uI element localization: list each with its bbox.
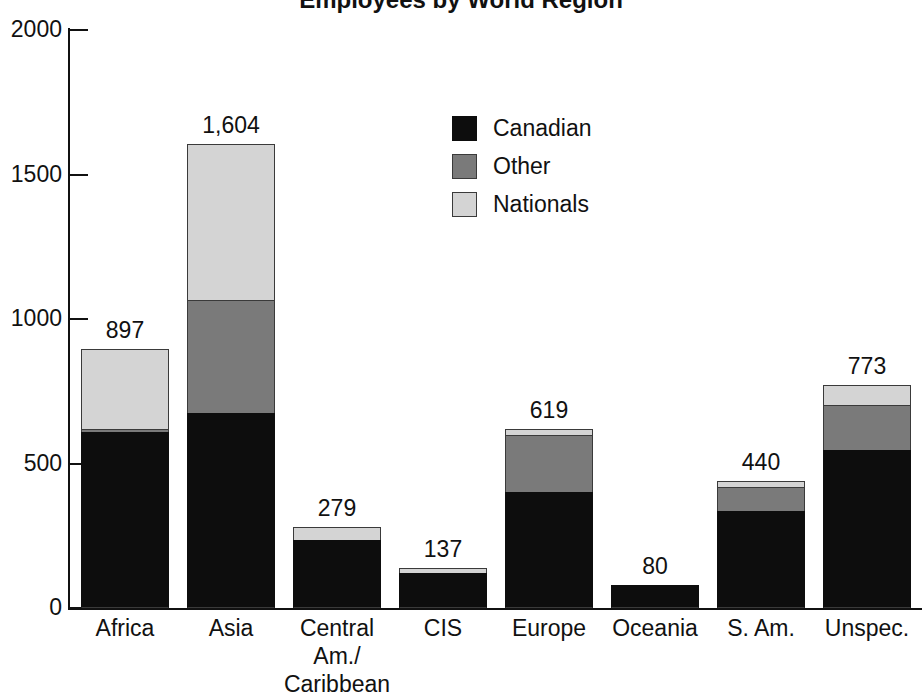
bar-segment-nationals[interactable]: [81, 349, 169, 430]
bar-chart: Employees by World Region 20001500100050…: [0, 0, 922, 696]
y-tick-label: 2000: [0, 18, 62, 41]
legend-label: Other: [493, 155, 551, 178]
x-axis-label: CIS: [385, 614, 501, 642]
legend-item[interactable]: Other: [452, 150, 662, 183]
legend-item[interactable]: Nationals: [452, 188, 662, 221]
x-axis-label: Asia: [173, 614, 289, 642]
bar-total-label: 1,604: [151, 113, 311, 138]
x-axis-label: Africa: [67, 614, 183, 642]
x-axis-label-line: Asia: [173, 614, 289, 642]
bar-group[interactable]: 80: [611, 585, 699, 608]
x-axis-label-line: Am./: [279, 642, 395, 670]
legend-item[interactable]: Canadian: [452, 112, 662, 145]
x-axis-label: Europe: [491, 614, 607, 642]
y-tick-label: 1500: [0, 163, 62, 186]
x-axis-label-line: S. Am.: [703, 614, 819, 642]
x-axis-label-line: Africa: [67, 614, 183, 642]
bar-group[interactable]: 773: [823, 385, 911, 608]
bar-total-label: 619: [469, 398, 629, 423]
y-tick-1500: [70, 174, 88, 176]
bar-segment-other[interactable]: [823, 405, 911, 450]
bar-segment-nationals[interactable]: [187, 144, 275, 300]
bar-total-label: 897: [45, 318, 205, 343]
x-axis-label-line: Central: [279, 614, 395, 642]
y-tick-label: 0: [0, 596, 62, 619]
swatch-canadian-icon: [452, 116, 477, 141]
x-axis-label-line: Oceania: [597, 614, 713, 642]
bar-segment-canadian[interactable]: [717, 511, 805, 608]
x-axis-label: CentralAm./Caribbean: [279, 614, 395, 696]
x-axis-label-line: Caribbean: [279, 670, 395, 696]
bar-group[interactable]: 440: [717, 481, 805, 608]
x-axis-label: S. Am.: [703, 614, 819, 642]
x-axis-label-line: CIS: [385, 614, 501, 642]
y-tick-2000: [70, 29, 88, 31]
bar-segment-canadian[interactable]: [399, 573, 487, 608]
bar-segment-canadian[interactable]: [823, 450, 911, 608]
bar-total-label: 440: [681, 450, 841, 475]
bar-total-label: 773: [787, 354, 922, 379]
bar-segment-canadian[interactable]: [611, 585, 699, 608]
x-axis-label: Oceania: [597, 614, 713, 642]
bar-segment-other[interactable]: [505, 435, 593, 492]
bar-total-label: 279: [257, 496, 417, 521]
bar-total-label: 80: [575, 554, 735, 579]
bar-group[interactable]: 619: [505, 429, 593, 608]
swatch-nationals-icon: [452, 192, 477, 217]
bar-segment-other[interactable]: [187, 300, 275, 413]
bar-segment-other[interactable]: [717, 487, 805, 512]
x-axis-label-line: Europe: [491, 614, 607, 642]
legend-label: Canadian: [493, 117, 591, 140]
swatch-other-icon: [452, 154, 477, 179]
plot-area: 2000150010005000 8971,604279137619804407…: [0, 0, 922, 696]
legend: CanadianOtherNationals: [452, 112, 662, 226]
bar-group[interactable]: 897: [81, 349, 169, 608]
x-axis-line: [68, 608, 922, 610]
bar-segment-canadian[interactable]: [505, 492, 593, 608]
y-tick-label: 500: [0, 452, 62, 475]
bar-group[interactable]: 137: [399, 568, 487, 608]
bar-total-label: 137: [363, 537, 523, 562]
bar-segment-canadian[interactable]: [81, 432, 169, 608]
bar-group[interactable]: 1,604: [187, 144, 275, 608]
bar-segment-nationals[interactable]: [823, 385, 911, 406]
x-axis-label-line: Unspec.: [809, 614, 922, 642]
x-axis-label: Unspec.: [809, 614, 922, 642]
legend-label: Nationals: [493, 193, 589, 216]
